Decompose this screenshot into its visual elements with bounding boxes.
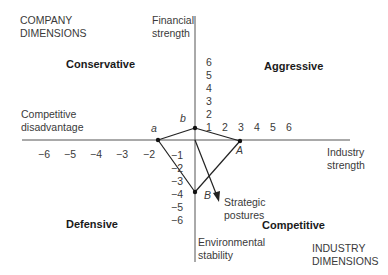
point-label-A: A	[236, 144, 243, 157]
point-label-B: B	[204, 189, 211, 202]
competitive-disadvantage-label: Competitivedisadvantage	[21, 108, 83, 134]
quadrant-conservative: Conservative	[66, 58, 135, 70]
point-a	[156, 138, 160, 142]
edge-B-A	[195, 141, 240, 192]
edge-b-A	[195, 128, 240, 141]
financial-strength-label: Financialstrength	[152, 14, 194, 40]
strategic-postures-label: Strategicpostures	[224, 196, 265, 222]
point-label-b: b	[180, 112, 186, 125]
point-b	[193, 126, 197, 130]
point-A	[238, 139, 242, 143]
industry-dimensions-label: INDUSTRYDIMENSIONS	[312, 242, 379, 268]
point-B	[193, 190, 197, 194]
environmental-stability-label: Environmentalstability	[198, 236, 265, 262]
quadrant-defensive: Defensive	[66, 218, 118, 230]
arrow-head-icon	[213, 191, 220, 202]
industry-strength-label: Industrystrength	[327, 146, 365, 172]
edge-a-b	[158, 128, 195, 140]
quadrant-competitive: Competitive	[262, 219, 325, 231]
diagram-canvas	[0, 0, 388, 275]
company-dimensions-label: COMPANYDIMENSIONS	[20, 14, 87, 40]
quadrant-aggressive: Aggressive	[264, 60, 323, 72]
point-label-a: a	[151, 122, 157, 135]
